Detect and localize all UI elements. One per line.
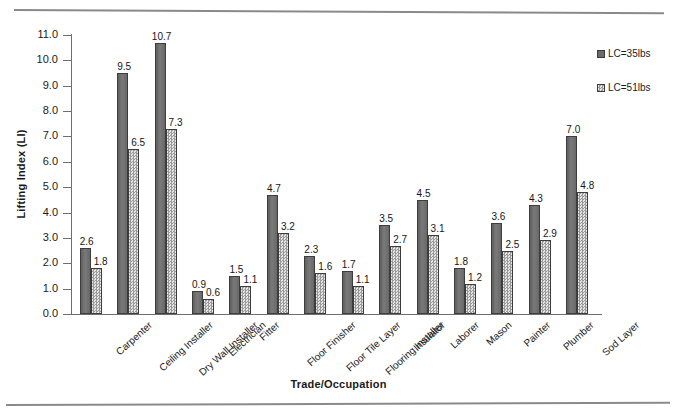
legend-item[interactable]: LC=35lbs [597, 49, 677, 59]
y-axis-tick-label: 11.0 [16, 29, 58, 40]
bar-lc51 [166, 129, 177, 314]
y-axis-tick [63, 35, 71, 36]
bar-lc51 [577, 192, 588, 314]
bar-value-label: 4.5 [413, 189, 435, 199]
x-axis-tick-label: Mason [485, 320, 514, 348]
y-axis-tick-label: 5.0 [16, 181, 58, 192]
x-axis-tick-label: Sod Layer [601, 320, 642, 358]
legend-swatch-icon [597, 50, 605, 58]
bar-value-label: 2.9 [539, 229, 561, 239]
bar-group: 2.31.6 [304, 35, 326, 314]
y-axis-tick-label: 1.0 [16, 283, 58, 294]
bar-value-label: 7.3 [165, 118, 187, 128]
bar-lc35 [155, 43, 166, 314]
y-axis-tick [63, 136, 71, 137]
y-axis-tick [63, 162, 71, 163]
y-axis-tick-label: 8.0 [16, 105, 58, 116]
x-axis-title: Trade/Occupation [0, 378, 677, 390]
bar-lc35 [491, 223, 502, 314]
bar-group: 1.81.2 [454, 35, 476, 314]
y-axis-tick-label: 4.0 [16, 207, 58, 218]
bar-lc51 [128, 149, 139, 314]
bar-value-label: 3.6 [487, 212, 509, 222]
bar-group: 3.62.5 [491, 35, 513, 314]
bar-group: 1.71.1 [342, 35, 364, 314]
bar-group: 4.73.2 [267, 35, 289, 314]
legend-item-label: LC=51lbs [608, 83, 651, 93]
y-axis-tick [63, 111, 71, 112]
bar-value-label: 10.7 [151, 32, 173, 42]
bar-lc51 [502, 251, 513, 314]
y-axis-tick [63, 187, 71, 188]
bar-group: 2.61.8 [80, 35, 102, 314]
bar-lc35 [117, 73, 128, 314]
bar-value-label: 1.2 [464, 273, 486, 283]
bar-lc51 [390, 246, 401, 314]
bar-value-label: 2.7 [389, 235, 411, 245]
legend-swatch-icon [597, 84, 605, 92]
bar-lc35 [267, 195, 278, 314]
y-axis-tick-label: 10.0 [16, 54, 58, 65]
y-axis-tick [63, 86, 71, 87]
bar-lc51 [315, 273, 326, 314]
bar-lc35 [566, 136, 577, 314]
y-axis-tick-label: 7.0 [16, 130, 58, 141]
bar-value-label: 4.3 [525, 194, 547, 204]
bar-lc51 [240, 286, 251, 314]
y-axis-tick-label: 3.0 [16, 232, 58, 243]
bar-lc35 [417, 200, 428, 314]
bar-group: 9.56.5 [117, 35, 139, 314]
bar-value-label: 3.1 [427, 224, 449, 234]
y-axis-tick [63, 60, 71, 61]
bar-lc51 [278, 233, 289, 314]
bar-value-label: 2.5 [501, 240, 523, 250]
x-axis-tick-label: Laborer [448, 320, 480, 350]
bar-value-label: 9.5 [113, 62, 135, 72]
bar-value-label: 3.5 [375, 214, 397, 224]
bar-value-label: 6.5 [127, 138, 149, 148]
bar-value-label: 0.6 [202, 288, 224, 298]
bar-lc51 [465, 284, 476, 314]
bar-lc35 [529, 205, 540, 314]
bar-value-label: 4.8 [576, 181, 598, 191]
plot-area: 2.61.89.56.510.77.30.90.61.51.14.73.22.3… [72, 35, 596, 314]
bar-group: 10.77.3 [155, 35, 177, 314]
bar-value-label: 2.3 [300, 245, 322, 255]
bar-group: 0.90.6 [192, 35, 214, 314]
bar-value-label: 3.2 [277, 222, 299, 232]
y-axis-tick [63, 289, 71, 290]
chart-legend: LC=35lbsLC=51lbs [597, 49, 677, 117]
bar-value-label: 1.6 [314, 262, 336, 272]
bar-lc51 [203, 299, 214, 314]
bar-value-label: 1.1 [239, 275, 261, 285]
legend-item[interactable]: LC=51lbs [597, 83, 677, 93]
legend-item-label: LC=35lbs [608, 49, 651, 59]
bottom-divider-rule [6, 402, 670, 406]
y-axis-tick-label: 6.0 [16, 156, 58, 167]
y-axis-tick [63, 314, 71, 315]
bar-group: 7.04.8 [566, 35, 588, 314]
y-axis-tick [63, 238, 71, 239]
bar-value-label: 2.6 [76, 237, 98, 247]
x-axis-tick-label: Plumber [561, 320, 595, 352]
bar-value-label: 1.1 [352, 275, 374, 285]
y-axis-tick [63, 263, 71, 264]
y-axis-tick [63, 213, 71, 214]
x-axis-tick-label: Painter [523, 320, 553, 349]
bar-group: 4.32.9 [529, 35, 551, 314]
y-axis-title: Lifting Index (LI) [15, 109, 27, 239]
bar-group: 4.53.1 [417, 35, 439, 314]
bar-value-label: 7.0 [562, 125, 584, 135]
bar-value-label: 4.7 [263, 184, 285, 194]
y-axis-tick-label: 2.0 [16, 257, 58, 268]
bar-value-label: 1.8 [450, 257, 472, 267]
x-axis-tick-label: Carpenter [114, 320, 154, 357]
top-divider-rule [14, 9, 664, 14]
bar-value-label: 1.7 [338, 260, 360, 270]
y-axis-tick-label: 9.0 [16, 80, 58, 91]
bar-lc51 [353, 286, 364, 314]
bar-lc51 [91, 268, 102, 314]
bar-lc51 [428, 235, 439, 314]
bar-chart: Lifting Index (LI) 0.01.02.03.04.05.06.0… [0, 18, 677, 388]
bar-value-label: 1.8 [90, 257, 112, 267]
